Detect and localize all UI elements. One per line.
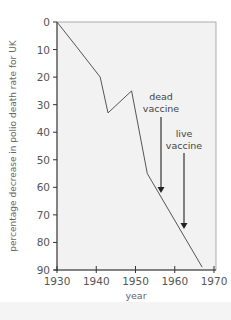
y-ticks: 0102030405060708090 [37, 16, 57, 276]
annotation-dead-line1: dead [149, 91, 173, 102]
y-tick-label: 10 [37, 44, 50, 56]
annotation-live-line1: live [176, 128, 193, 139]
y-tick-label: 60 [37, 181, 50, 193]
annotation-live-line2: vaccine [166, 140, 203, 151]
y-tick-label: 40 [37, 126, 50, 138]
y-tick-label: 30 [37, 99, 50, 111]
polio-chart: 0102030405060708090 19301940195019601970… [0, 0, 231, 320]
x-tick-label: 1960 [161, 275, 188, 287]
x-tick-label: 1930 [44, 275, 71, 287]
y-tick-label: 0 [43, 16, 50, 28]
x-axis-title: year [125, 290, 146, 301]
x-tick-label: 1940 [83, 275, 110, 287]
y-axis-title: percentage decrease in polio death rate … [8, 39, 18, 251]
y-tick-label: 20 [37, 71, 50, 83]
y-tick-label: 50 [37, 154, 50, 166]
x-tick-label: 1950 [122, 275, 149, 287]
annotation-dead-line2: vaccine [143, 103, 180, 114]
y-tick-label: 70 [37, 209, 50, 221]
y-tick-label: 80 [37, 236, 50, 248]
x-tick-label: 1970 [201, 275, 228, 287]
